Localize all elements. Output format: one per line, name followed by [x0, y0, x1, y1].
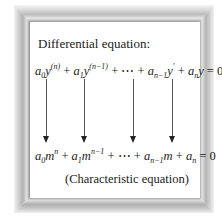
sup-n-minus-1: n−1 [91, 147, 104, 156]
arrow-down-icon [133, 79, 134, 137]
sup-n: n [54, 147, 58, 156]
caption-characteristic-equation: (Characteristic equation) [65, 172, 189, 187]
ellipsis: ⋯ [118, 149, 131, 163]
rhs-zero: 0 [217, 64, 222, 78]
rhs-zero: 0 [209, 149, 215, 163]
var-m: m [82, 149, 91, 163]
frame-left-edge [14, 5, 30, 213]
arrow-down-icon [46, 79, 47, 137]
differential-equation: a0y(n) + a1y(n−1) + ⋯ + an−1y′ + any = 0 [35, 62, 222, 80]
var-m: m [45, 149, 54, 163]
var-m: m [164, 149, 173, 163]
sub-n-minus-1: n−1 [150, 156, 163, 165]
sup-n-minus-1: (n−1) [89, 62, 108, 71]
sub-n: n [192, 156, 196, 165]
heading-differential-equation: Differential equation: [38, 36, 150, 52]
sub-n-minus-1: n−1 [154, 71, 167, 80]
ellipsis: ⋯ [121, 64, 134, 78]
var-y: y [198, 64, 204, 78]
sup-prime: ′ [173, 62, 175, 71]
sup-n: (n) [51, 62, 60, 71]
arrow-down-icon [172, 79, 173, 137]
characteristic-equation: a0mn + a1mn−1 + ⋯ + an−1m + an = 0 [35, 147, 216, 165]
arrow-down-icon [84, 79, 85, 137]
frame-right-edge [199, 5, 214, 213]
frame-top-edge [14, 5, 214, 22]
frame-bottom-edge [14, 197, 214, 213]
